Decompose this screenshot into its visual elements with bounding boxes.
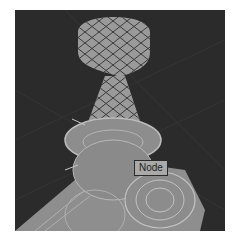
3d-viewport[interactable]: Node	[15, 10, 225, 231]
model-body[interactable]	[15, 118, 205, 231]
selected-node-head[interactable]	[70, 10, 160, 135]
3d-model-canvas[interactable]	[15, 10, 225, 231]
node-tooltip: Node	[134, 160, 168, 176]
